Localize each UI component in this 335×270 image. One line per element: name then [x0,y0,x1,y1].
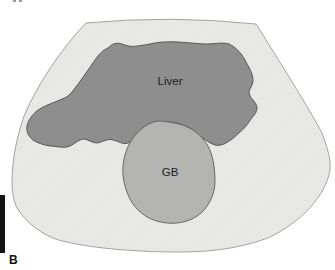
gallbladder-label: GB [162,166,179,178]
halftone-texture-overlay [0,0,335,270]
ultrasound-sector-illustration: Liver GB [0,0,335,270]
ultrasound-diagram-panel: Liver GB B [0,0,335,270]
liver-label: Liver [158,75,183,87]
left-edge-bar [0,195,5,253]
panel-letter-label: B [9,253,18,267]
